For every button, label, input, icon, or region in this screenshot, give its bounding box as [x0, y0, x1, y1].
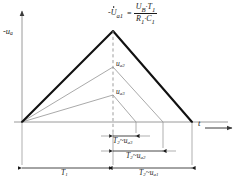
dim-label-t2-ua3: T2~ua3	[113, 137, 132, 146]
x-axis-label: t	[198, 119, 200, 128]
formula-denominator: R1·C1	[134, 14, 157, 25]
peak-label-ua2: ua2	[116, 60, 125, 69]
triangle-waveform-diagram: -Ua1 = UB·T1 R1·C1 -ua t ua2 ua3 T2~ua3 …	[0, 0, 247, 179]
peak-label-ua3: ua3	[116, 88, 125, 97]
dim-label-t2-ua2: T2~ua2	[126, 152, 145, 161]
extension-lines	[22, 122, 192, 165]
y-axis-label: -ua	[3, 27, 13, 37]
waveform-secondary	[22, 67, 163, 122]
waveform-primary	[22, 31, 192, 122]
formula-equals: =	[127, 9, 132, 18]
formula-fraction: UB·T1 R1·C1	[134, 2, 158, 26]
output-amplitude-formula: -Ua1 = UB·T1 R1·C1	[108, 2, 157, 26]
formula-numerator: UB·T1	[134, 2, 158, 13]
dim-label-t1: T1	[61, 169, 68, 178]
formula-lhs: -Ua1	[108, 8, 123, 19]
waveform-tertiary	[22, 95, 136, 122]
dim-label-t2-ua1: T2~ua1	[139, 169, 158, 178]
